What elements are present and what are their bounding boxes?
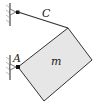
cable-label: C — [42, 7, 51, 20]
mass-label: m — [51, 55, 61, 68]
pin-a — [16, 65, 20, 69]
mechanics-diagram: C m A — [0, 0, 98, 107]
upper-wall-support — [6, 3, 16, 26]
pin-label: A — [12, 52, 21, 65]
